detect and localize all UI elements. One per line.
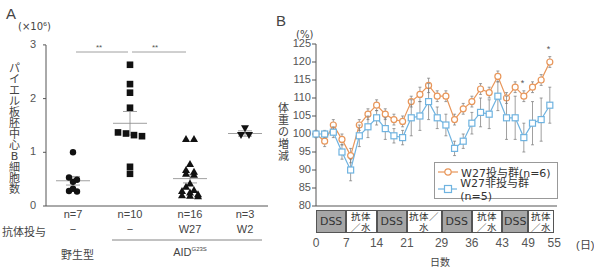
dss-segment: DSS <box>377 210 407 233</box>
dss-segment: DSS <box>442 210 472 233</box>
x-unit: (日) <box>576 236 594 252</box>
x-tick: 49 <box>518 236 538 250</box>
significance-mark: ** <box>152 43 158 52</box>
dss-segment: DSS <box>502 210 528 233</box>
antibody-water-segment: 抗体／水 <box>407 210 442 233</box>
x-tick: 43 <box>492 236 512 250</box>
x-tick: 21 <box>397 236 417 250</box>
legend: W27投与群(n=6) W27非投与群(n=5) <box>434 162 558 199</box>
square-marker-icon <box>438 184 457 194</box>
dss-segment: DSS <box>316 210 346 233</box>
antibody-water-segment: 抗体 ／水 <box>528 210 554 233</box>
x-tick: 0 <box>306 236 326 250</box>
significance-mark: * <box>521 78 525 88</box>
antibody-water-segment: 抗体 ／水 <box>472 210 502 233</box>
x-tick: 29 <box>432 236 452 250</box>
significance-mark: ** <box>96 43 102 52</box>
x-tick: 14 <box>367 236 387 250</box>
circle-marker-icon <box>438 167 458 177</box>
x-tick: 7 <box>336 236 356 250</box>
x-tick: 55 <box>544 236 564 250</box>
x-axis-label: 日数 <box>420 254 460 269</box>
significance-mark: * <box>547 44 551 54</box>
antibody-water-segment: 抗体 ／水 <box>346 210 376 233</box>
x-tick: 36 <box>462 236 482 250</box>
legend-item-untreated: W27非投与群(n=5) <box>435 180 557 197</box>
